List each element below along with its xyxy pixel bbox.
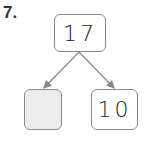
whole-value: 17: [63, 21, 97, 46]
known-part-value: 10: [98, 97, 132, 122]
arrow-left: [44, 52, 79, 88]
blank-part-box[interactable]: [24, 89, 62, 130]
whole-box: 17: [54, 14, 106, 52]
arrow-right: [79, 52, 114, 88]
known-part-box: 10: [91, 89, 138, 130]
